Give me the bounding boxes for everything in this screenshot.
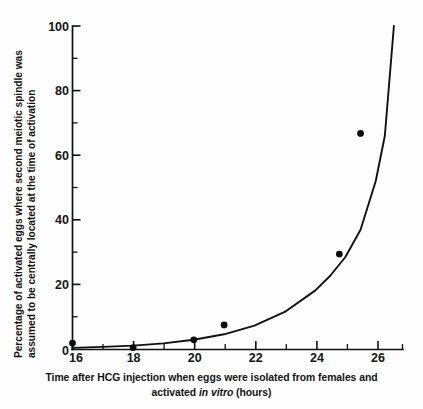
x-tick-label: 22 (249, 351, 263, 365)
y-tick-label: 0 (62, 344, 69, 358)
chart-figure: 100 80 60 40 20 0 16 18 20 (0, 0, 423, 409)
y-axis-major-ticks (73, 26, 81, 284)
x-tick-label: 24 (310, 351, 324, 365)
fitted-curve (73, 26, 394, 348)
chart-plot-area: 100 80 60 40 20 0 16 18 20 (0, 0, 423, 409)
y-tick-label: 20 (55, 278, 69, 292)
y-axis-tick-labels: 100 80 60 40 20 0 (48, 20, 69, 358)
x-axis-title-pre: activated (152, 387, 199, 398)
y-axis-title-line-1: Percentage of activated eggs where secon… (13, 50, 24, 358)
x-tick-label: 20 (188, 351, 202, 365)
data-point (357, 130, 364, 137)
data-point (336, 251, 343, 258)
y-axis-title-line-2: assumed to be centrally located at the t… (26, 90, 37, 358)
data-point (130, 344, 137, 351)
x-tick-label: 26 (371, 351, 385, 365)
data-point (190, 336, 197, 343)
x-axis-tick-labels: 16 18 20 22 24 26 (69, 351, 385, 365)
y-tick-label: 80 (55, 84, 69, 98)
x-tick-label: 18 (127, 351, 141, 365)
x-tick-label: 16 (69, 351, 83, 365)
y-tick-label: 40 (55, 213, 69, 227)
x-axis-title-italic: in vitro (199, 387, 233, 398)
x-axis-title-line-2: activated in vitro (hours) (0, 385, 423, 400)
x-axis-title-post: (hours) (233, 387, 271, 398)
y-tick-label: 100 (48, 20, 69, 34)
x-axis-title-line-1: Time after HCG injection when eggs were … (0, 370, 423, 385)
y-tick-label: 60 (55, 149, 69, 163)
data-points-group (69, 130, 364, 351)
y-axis-title: Percentage of activated eggs where secon… (0, 0, 42, 366)
data-point (69, 340, 76, 347)
data-point (221, 322, 228, 329)
x-axis-title: Time after HCG injection when eggs were … (0, 370, 423, 400)
